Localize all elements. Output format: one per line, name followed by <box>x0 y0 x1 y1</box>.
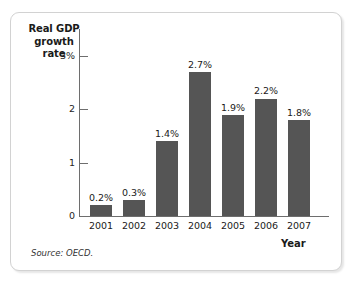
bar-value-2003: 1.4% <box>145 129 189 139</box>
figure-frame: Real GDP growth rate 3% 2 1 0 0.2% 0.3% … <box>10 12 342 271</box>
bar-2001[interactable] <box>90 205 112 216</box>
x-tick-label-2003: 2003 <box>149 220 185 231</box>
x-tick-label-2002: 2002 <box>116 220 152 231</box>
bar-2006[interactable] <box>255 99 277 216</box>
bar-value-2006: 2.2% <box>244 86 288 96</box>
x-tick-label-2005: 2005 <box>215 220 251 231</box>
y-tick-mark-1 <box>80 163 88 164</box>
x-axis-line <box>79 216 329 217</box>
source-note: Source: OECD. <box>31 248 93 258</box>
bar-value-2002: 0.3% <box>112 188 156 198</box>
bar-2002[interactable] <box>123 200 145 216</box>
bar-2003[interactable] <box>156 141 178 216</box>
bar-value-2004: 2.7% <box>178 60 222 70</box>
plot-area: Real GDP growth rate 3% 2 1 0 0.2% 0.3% … <box>11 13 343 272</box>
x-tick-label-2007: 2007 <box>281 220 317 231</box>
bar-2005[interactable] <box>222 115 244 216</box>
y-tick-label-0: 0 <box>35 211 75 221</box>
x-tick-label-2006: 2006 <box>248 220 284 231</box>
x-tick-label-2004: 2004 <box>182 220 218 231</box>
y-tick-mark-2 <box>80 109 88 110</box>
y-tick-label-1: 1 <box>35 158 75 168</box>
y-axis-line <box>79 29 80 217</box>
y-tick-label-2: 2 <box>35 104 75 114</box>
bar-value-2005: 1.9% <box>211 103 255 113</box>
y-tick-mark-3 <box>80 56 88 57</box>
bar-value-2007: 1.8% <box>277 108 321 118</box>
y-tick-mark-0 <box>80 216 88 217</box>
x-tick-label-2001: 2001 <box>83 220 119 231</box>
bar-2004[interactable] <box>189 72 211 216</box>
x-axis-title: Year <box>281 238 306 249</box>
y-tick-label-3: 3% <box>35 51 75 61</box>
bar-2007[interactable] <box>288 120 310 216</box>
y-tick-labels: 3% 2 1 0 <box>29 13 75 272</box>
